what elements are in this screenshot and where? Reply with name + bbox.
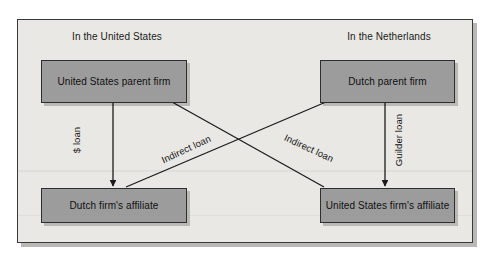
node-united-states-firms-affiliate[interactable]: United States firm's affiliate	[320, 188, 455, 223]
region-label-netherlands: In the Netherlands	[330, 31, 448, 42]
node-label: Dutch firm's affiliate	[70, 200, 159, 211]
scan-band	[18, 171, 472, 172]
node-label: United States parent firm	[57, 76, 170, 87]
node-dutch-parent-firm[interactable]: Dutch parent firm	[320, 60, 455, 103]
node-label: Dutch parent firm	[348, 76, 426, 87]
diagram-screenshot: In the United States In the Netherlands …	[0, 0, 492, 258]
edge-label-dollar-loan: $ loan	[71, 127, 82, 153]
scan-band	[18, 170, 472, 171]
node-label: United States firm's affiliate	[326, 200, 450, 211]
region-label-united-states: In the United States	[58, 31, 176, 42]
node-dutch-firms-affiliate[interactable]: Dutch firm's affiliate	[41, 188, 187, 223]
edge-label-guilder-loan: Guilder loan	[393, 114, 404, 166]
node-united-states-parent-firm[interactable]: United States parent firm	[41, 60, 187, 103]
